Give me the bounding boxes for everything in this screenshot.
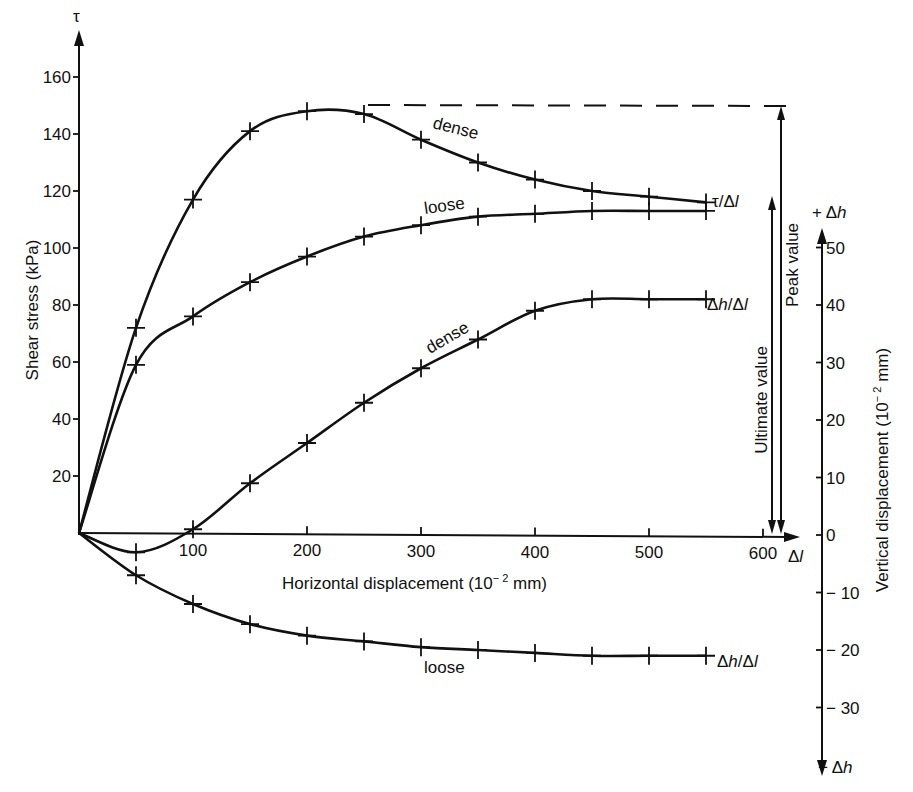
plus-marker-icon bbox=[127, 319, 145, 337]
delta-l-symbol: Δl bbox=[788, 547, 804, 566]
y-right-tick-label: 50 bbox=[826, 239, 845, 258]
dense-dh-dl-end-label: Δh/Δl bbox=[707, 295, 749, 314]
dense-shear-label: dense bbox=[431, 113, 481, 143]
y-left-tick-label: 100 bbox=[43, 239, 71, 258]
dense-shear-curve bbox=[79, 110, 706, 533]
plus-marker-icon bbox=[298, 434, 316, 452]
plus-marker-icon bbox=[640, 290, 658, 308]
x-tick-label: 100 bbox=[179, 541, 207, 560]
plus-marker-icon bbox=[697, 647, 715, 665]
y-right-tick-label: − 20 bbox=[826, 641, 860, 660]
plus-marker-icon bbox=[583, 290, 601, 308]
plus-marker-icon bbox=[583, 182, 601, 200]
y-right-tick-label: − 10 bbox=[826, 584, 860, 603]
tau-dl-end-label: τ/Δl bbox=[712, 192, 740, 211]
plus-marker-icon bbox=[241, 273, 259, 291]
y-left-tick-label: 80 bbox=[52, 296, 71, 315]
y-axis-left-title: Shear stress (kPa) bbox=[23, 240, 42, 381]
plus-marker-icon bbox=[469, 641, 487, 659]
loose-vertical-displacement-curve bbox=[79, 533, 706, 656]
plus-marker-icon bbox=[184, 595, 202, 613]
loose-shear-label: loose bbox=[423, 193, 466, 217]
plus-marker-icon bbox=[184, 520, 202, 538]
x-axis-ticks: 100200300400500600 bbox=[179, 526, 777, 563]
plus-marker-icon bbox=[298, 102, 316, 120]
x-axis-arrow-icon bbox=[784, 532, 800, 542]
tau-symbol: τ bbox=[73, 7, 80, 26]
ultimate-value-arrow-up-icon bbox=[768, 196, 776, 210]
y-left-tick-label: 160 bbox=[43, 68, 71, 87]
peak-value-label: Peak value bbox=[783, 223, 802, 307]
y-right-tick-label: 30 bbox=[826, 354, 845, 373]
plus-marker-icon bbox=[526, 644, 544, 662]
plus-marker-icon bbox=[355, 105, 373, 123]
plus-marker-icon bbox=[298, 627, 316, 645]
plus-marker-icon bbox=[412, 216, 430, 234]
x-tick-label: 500 bbox=[635, 543, 663, 562]
plus-marker-icon bbox=[241, 615, 259, 633]
plus-marker-icon bbox=[526, 171, 544, 189]
plus-marker-icon bbox=[298, 248, 316, 266]
shear-box-test-chart: τ 20406080100120140160 Shear stress (kPa… bbox=[0, 0, 913, 792]
y-axis-left-ticks: 20406080100120140160 bbox=[43, 68, 79, 486]
x-tick-label: 600 bbox=[749, 544, 777, 563]
peak-value-arrow-up-icon bbox=[777, 106, 785, 120]
y-axis-right-title: Vertical displacement (10− 2 mm) bbox=[871, 348, 892, 592]
plus-marker-icon bbox=[526, 302, 544, 320]
y-axis-left-arrow-icon bbox=[74, 30, 84, 46]
y-right-tick-label: 20 bbox=[826, 411, 845, 430]
plus-marker-icon bbox=[127, 543, 145, 561]
y-right-tick-label: − 30 bbox=[826, 699, 860, 718]
dense-vertical-displacement-curve bbox=[79, 298, 706, 552]
plus-marker-icon bbox=[355, 632, 373, 650]
plus-delta-h-symbol: + Δh bbox=[812, 203, 847, 222]
dense-dh-label: dense bbox=[423, 318, 473, 358]
y-left-tick-label: 40 bbox=[52, 410, 71, 429]
peak-value-arrow-down-icon bbox=[777, 520, 785, 534]
y-left-tick-label: 140 bbox=[43, 125, 71, 144]
plus-marker-icon bbox=[583, 647, 601, 665]
x-tick-label: 300 bbox=[407, 542, 435, 561]
plus-marker-icon bbox=[355, 394, 373, 412]
y-left-tick-label: 120 bbox=[43, 182, 71, 201]
plus-marker-icon bbox=[184, 191, 202, 209]
y-right-tick-label: 0 bbox=[826, 526, 835, 545]
plus-marker-icon bbox=[469, 331, 487, 349]
ultimate-value-label: Ultimate value bbox=[752, 346, 771, 454]
ultimate-value-arrow-down-icon bbox=[768, 520, 776, 534]
y-right-tick-label: 10 bbox=[826, 469, 845, 488]
plus-marker-icon bbox=[583, 202, 601, 220]
minus-delta-h-symbol: − Δh bbox=[818, 758, 853, 777]
peak-value-dashed-line bbox=[368, 105, 792, 106]
plus-marker-icon bbox=[184, 307, 202, 325]
y-left-tick-label: 20 bbox=[52, 467, 71, 486]
plus-marker-icon bbox=[412, 638, 430, 656]
x-tick-label: 200 bbox=[293, 541, 321, 560]
x-tick-label: 400 bbox=[521, 543, 549, 562]
plus-marker-icon bbox=[412, 131, 430, 149]
plus-marker-icon bbox=[127, 356, 145, 374]
plus-marker-icon bbox=[469, 154, 487, 172]
x-axis-title: Horizontal displacement (10− 2 mm) bbox=[282, 572, 547, 593]
plus-marker-icon bbox=[640, 647, 658, 665]
plus-marker-icon bbox=[526, 205, 544, 223]
y-left-tick-label: 60 bbox=[52, 353, 71, 372]
plus-marker-icon bbox=[355, 228, 373, 246]
y-right-tick-label: 40 bbox=[826, 296, 845, 315]
plus-marker-icon bbox=[412, 359, 430, 377]
loose-shear-curve bbox=[79, 211, 706, 533]
loose-dh-label: loose bbox=[424, 658, 465, 677]
plus-marker-icon bbox=[469, 208, 487, 226]
plus-marker-icon bbox=[640, 202, 658, 220]
plus-marker-icon bbox=[127, 566, 145, 584]
loose-dh-dl-end-label: Δh/Δl bbox=[717, 652, 759, 671]
